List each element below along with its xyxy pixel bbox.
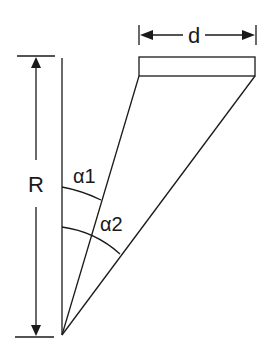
- arc-alpha1: [62, 187, 101, 200]
- r-arrowhead-down: [31, 325, 41, 336]
- slab-rectangle: [139, 57, 255, 76]
- ray-alpha1: [62, 76, 139, 335]
- alpha1-label: α1: [73, 165, 96, 187]
- geometry-diagram: d R α1 α2: [0, 0, 269, 350]
- d-arrowhead-right: [242, 30, 255, 40]
- d-label: d: [188, 23, 200, 48]
- r-label: R: [28, 172, 44, 197]
- alpha2-label: α2: [100, 213, 123, 235]
- ray-alpha2: [62, 76, 255, 335]
- r-arrowhead-up: [31, 57, 41, 68]
- d-arrowhead-left: [140, 30, 153, 40]
